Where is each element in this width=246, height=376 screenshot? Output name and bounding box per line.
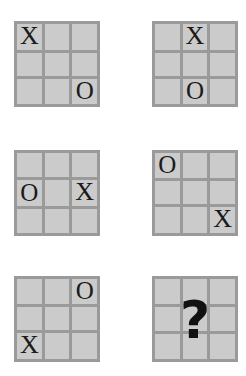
grid-3-mark-r1c0: O: [20, 180, 38, 205]
grid-2-cell-r2c1[interactable]: O: [183, 79, 208, 104]
grid-6-cell-r1c1[interactable]: [183, 307, 208, 332]
grid-6-cell-r1c0[interactable]: [155, 307, 180, 332]
grid-2-cell-r0c2[interactable]: [210, 24, 235, 50]
grid-1-mark-r0c0: X: [20, 23, 39, 49]
grid-2-cell-r2c0[interactable]: [155, 79, 180, 104]
grid-1-cells: X O: [14, 21, 100, 107]
grid-1-mark-r2c2: O: [76, 78, 94, 103]
grid-3-mark-r1c2: X: [75, 179, 94, 205]
grid-3-cell-r0c2[interactable]: [72, 153, 97, 177]
grid-3-cell-r1c2[interactable]: X: [72, 180, 97, 206]
grid-6-cells: [152, 276, 238, 362]
grid-4-mark-r0c0: O: [158, 152, 176, 177]
grid-5-cell-r0c2[interactable]: O: [72, 279, 97, 304]
grid-5-cells: O X: [14, 276, 100, 362]
grid-5-cell-r2c0[interactable]: X: [17, 333, 42, 359]
grid-5-mark-r0c2: O: [76, 278, 94, 303]
grid-2-mark-r0c1: X: [186, 23, 205, 49]
grid-3-cell-r1c1[interactable]: [45, 180, 70, 206]
grid-6-cell-r0c1[interactable]: [183, 279, 208, 304]
grid-4-cell-r1c1[interactable]: [183, 181, 208, 204]
grid-4-cell-r0c2[interactable]: [210, 153, 235, 178]
grid-2-cell-r1c2[interactable]: [210, 53, 235, 76]
grid-4-cell-r0c0[interactable]: O: [155, 153, 180, 178]
grid-4-cell-r1c0[interactable]: [155, 181, 180, 204]
grid-1-cell-r2c2[interactable]: O: [72, 79, 97, 104]
grid-2-cells: X O: [152, 21, 238, 107]
grid-2-cell-r0c0[interactable]: [155, 24, 180, 50]
grid-6-cell-r0c0[interactable]: [155, 279, 180, 304]
tic-tac-toe-grid-6-answer[interactable]: ?: [152, 276, 238, 362]
grid-2-cell-r0c1[interactable]: X: [183, 24, 208, 50]
grid-6-cell-r2c2[interactable]: [210, 334, 235, 359]
grid-3-cell-r0c1[interactable]: [45, 153, 70, 177]
grid-5-cell-r0c1[interactable]: [45, 279, 70, 304]
grid-4-cells: O X: [152, 150, 238, 236]
grid-4-cell-r1c2[interactable]: [210, 181, 235, 204]
tic-tac-toe-grid-3: O X: [14, 150, 100, 236]
grid-6-cell-r0c2[interactable]: [210, 279, 235, 304]
grid-6-cell-r2c1[interactable]: [183, 334, 208, 359]
grid-4-cell-r2c2[interactable]: X: [210, 207, 235, 233]
grid-2-cell-r2c2[interactable]: [210, 79, 235, 104]
tic-tac-toe-grid-5: O X: [14, 276, 100, 362]
grid-6-cell-r2c0[interactable]: [155, 334, 180, 359]
grid-4-cell-r2c0[interactable]: [155, 207, 180, 233]
puzzle-board: X O X O O: [0, 0, 246, 376]
grid-4-cell-r0c1[interactable]: [183, 153, 208, 178]
grid-5-cell-r1c1[interactable]: [45, 307, 70, 330]
grid-5-cell-r2c1[interactable]: [45, 333, 70, 359]
grid-3-cells: O X: [14, 150, 100, 236]
grid-3-cell-r1c0[interactable]: O: [17, 180, 42, 206]
grid-1-cell-r2c1[interactable]: [45, 79, 70, 104]
grid-3-cell-r0c0[interactable]: [17, 153, 42, 177]
grid-5-cell-r1c0[interactable]: [17, 307, 42, 330]
tic-tac-toe-grid-2: X O: [152, 21, 238, 107]
grid-1-cell-r0c1[interactable]: [45, 24, 70, 50]
grid-2-cell-r1c0[interactable]: [155, 53, 180, 76]
grid-5-cell-r2c2[interactable]: [72, 333, 97, 359]
grid-1-cell-r1c0[interactable]: [17, 53, 42, 76]
grid-6-cell-r1c2[interactable]: [210, 307, 235, 332]
grid-1-cell-r2c0[interactable]: [17, 79, 42, 104]
grid-3-cell-r2c1[interactable]: [45, 209, 70, 233]
grid-5-cell-r1c2[interactable]: [72, 307, 97, 330]
grid-1-cell-r1c2[interactable]: [72, 53, 97, 76]
tic-tac-toe-grid-4: O X: [152, 150, 238, 236]
grid-1-cell-r1c1[interactable]: [45, 53, 70, 76]
grid-3-cell-r2c2[interactable]: [72, 209, 97, 233]
grid-3-cell-r2c0[interactable]: [17, 209, 42, 233]
grid-4-cell-r2c1[interactable]: [183, 207, 208, 233]
grid-2-mark-r2c1: O: [186, 78, 204, 103]
grid-4-mark-r2c2: X: [213, 206, 232, 232]
grid-1-cell-r0c0[interactable]: X: [17, 24, 42, 50]
grid-5-mark-r2c0: X: [20, 332, 39, 358]
tic-tac-toe-grid-1: X O: [14, 21, 100, 107]
grid-1-cell-r0c2[interactable]: [72, 24, 97, 50]
grid-5-cell-r0c0[interactable]: [17, 279, 42, 304]
grid-2-cell-r1c1[interactable]: [183, 53, 208, 76]
